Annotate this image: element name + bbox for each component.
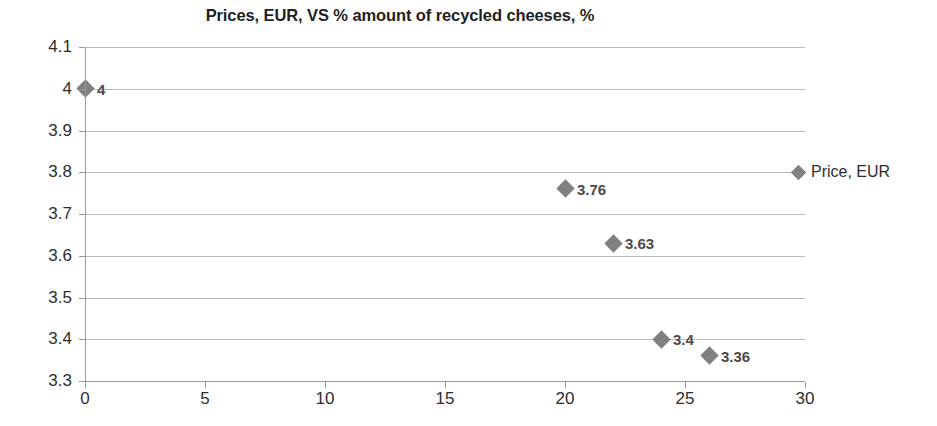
gridline-y [85, 339, 805, 340]
y-axis-tick-label: 3.3 [0, 371, 72, 391]
data-point-label: 3.4 [673, 331, 694, 348]
x-tick-mark [85, 382, 86, 388]
x-axis-tick-label: 30 [775, 389, 835, 409]
chart-title: Prices, EUR, VS % amount of recycled che… [0, 6, 800, 25]
gridline-y [85, 89, 805, 90]
legend-marker-icon [791, 164, 807, 180]
data-point-label: 4 [97, 80, 105, 97]
y-axis-tick-label: 3.8 [0, 162, 72, 182]
legend-entry-label: Price, EUR [811, 163, 890, 181]
gridline-y [85, 298, 805, 299]
y-tick-mark [79, 131, 85, 132]
x-axis-tick-label: 15 [415, 389, 475, 409]
data-point-marker[interactable] [604, 234, 622, 252]
data-point-label: 3.63 [625, 235, 654, 252]
y-axis-tick-label: 3.7 [0, 204, 72, 224]
data-point-label: 3.76 [577, 180, 606, 197]
gridline-y [85, 256, 805, 257]
x-tick-mark [565, 382, 566, 388]
y-axis-tick-label: 4.1 [0, 37, 72, 57]
data-point-marker[interactable] [652, 330, 670, 348]
x-axis-tick-label: 25 [655, 389, 715, 409]
y-axis-tick-label: 3.6 [0, 246, 72, 266]
x-axis-tick-label: 10 [295, 389, 355, 409]
gridline-y [85, 131, 805, 132]
data-point-label: 3.36 [721, 347, 750, 364]
plot-area: 43.763.633.43.36 [85, 47, 805, 381]
y-axis-tick-label: 3.9 [0, 121, 72, 141]
y-axis-tick-label: 3.4 [0, 329, 72, 349]
y-axis-tick-label: 3.5 [0, 288, 72, 308]
x-tick-mark [325, 382, 326, 388]
x-axis-tick-label: 5 [175, 389, 235, 409]
y-tick-mark [79, 256, 85, 257]
x-tick-mark [685, 382, 686, 388]
gridline-y [85, 214, 805, 215]
x-tick-mark [805, 382, 806, 388]
y-tick-mark [79, 339, 85, 340]
scatter-chart: Prices, EUR, VS % amount of recycled che… [0, 0, 937, 426]
x-tick-mark [445, 382, 446, 388]
y-tick-mark [79, 47, 85, 48]
x-tick-mark [205, 382, 206, 388]
chart-legend: Price, EUR [793, 163, 890, 181]
gridline-y [85, 47, 805, 48]
data-point-marker[interactable] [700, 347, 718, 365]
data-point-marker[interactable] [556, 180, 574, 198]
y-tick-mark [79, 89, 85, 90]
y-tick-mark [79, 214, 85, 215]
gridline-y [85, 172, 805, 173]
y-axis-line [85, 47, 86, 381]
x-axis-tick-label: 0 [55, 389, 115, 409]
x-axis-tick-label: 20 [535, 389, 595, 409]
y-tick-mark [79, 172, 85, 173]
y-tick-mark [79, 298, 85, 299]
y-axis-tick-label: 4 [0, 79, 72, 99]
